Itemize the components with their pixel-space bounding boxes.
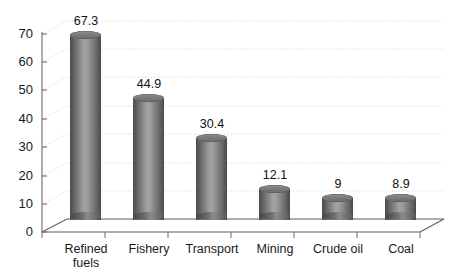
bar-bottom-ellipse xyxy=(259,212,290,220)
bar-top-ellipse xyxy=(196,134,227,142)
chart-floor xyxy=(42,219,444,232)
bar-top-ellipse xyxy=(133,94,164,102)
value-label-refined-fuels: 67.3 xyxy=(60,15,112,28)
ytick-label-10: 10 xyxy=(5,197,33,210)
bar-bottom-ellipse xyxy=(196,212,227,220)
bar-top-ellipse xyxy=(322,194,353,202)
bar-transport[interactable] xyxy=(196,134,227,224)
value-label-mining: 12.1 xyxy=(249,169,301,182)
category-label-coal: Coal xyxy=(363,242,439,256)
ytick-label-70: 70 xyxy=(5,27,33,40)
bar-crude-oil[interactable] xyxy=(322,194,353,224)
ytick-label-30: 30 xyxy=(5,140,33,153)
ytick-label-60: 60 xyxy=(5,55,33,68)
bar-chart: 70 60 50 40 30 20 10 0 67.3 44.9 30.4 1 xyxy=(0,0,459,278)
bar-bottom-ellipse xyxy=(385,212,416,220)
value-label-fishery: 44.9 xyxy=(123,78,175,91)
bar-body xyxy=(133,98,164,220)
ytick-label-20: 20 xyxy=(5,169,33,182)
value-label-crude-oil: 9 xyxy=(312,178,364,191)
bar-bottom-ellipse xyxy=(133,212,164,220)
bar-top-ellipse xyxy=(385,194,416,202)
ytick-label-50: 50 xyxy=(5,83,33,96)
bar-coal[interactable] xyxy=(385,194,416,224)
value-label-coal: 8.9 xyxy=(375,178,427,191)
bar-fishery[interactable] xyxy=(133,94,164,224)
bar-body xyxy=(196,138,227,220)
bar-bottom-ellipse xyxy=(70,212,101,220)
bar-top-ellipse xyxy=(259,185,290,193)
ytick-label-40: 40 xyxy=(5,112,33,125)
bar-top-ellipse xyxy=(70,31,101,39)
x-axis-ticks xyxy=(42,232,420,238)
bar-body xyxy=(70,35,101,220)
chart-canvas xyxy=(0,0,459,278)
ytick-label-0: 0 xyxy=(5,225,33,238)
bar-refined-fuels[interactable] xyxy=(70,31,101,224)
bar-bottom-ellipse xyxy=(322,212,353,220)
bar-mining[interactable] xyxy=(259,185,290,224)
gridlines xyxy=(42,21,444,204)
value-label-transport: 30.4 xyxy=(186,118,238,131)
